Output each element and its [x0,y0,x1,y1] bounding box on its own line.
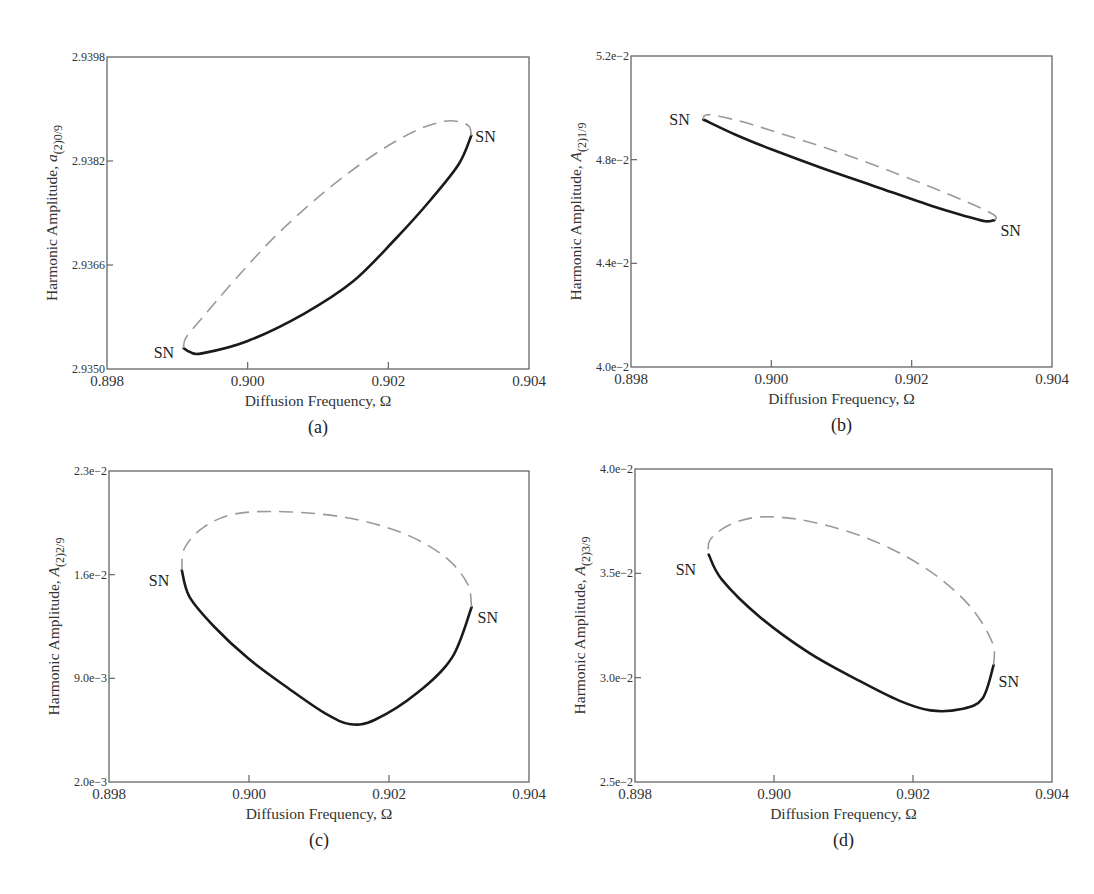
y-axis-title: Harmonic Amplitude, a(2)0/9 [43,125,65,301]
y-tick-label: 2.9382 [72,154,105,168]
x-tick-label: 0.904 [512,786,546,802]
y-tick-label: 3.5e−2 [600,566,633,580]
x-tick-label: 0.902 [895,371,929,387]
y-axis-title-subscript: (2)1/9 [575,123,589,152]
x-tick-label: 0.900 [757,786,791,802]
y-axis-title: Harmonic Amplitude, A(2)2/9 [45,538,67,716]
y-tick-label: 4.0e−2 [600,462,633,476]
y-axis-title-subscript: (2)0/9 [51,125,65,154]
saddle-node-label: SN [149,572,170,589]
x-tick-label: 0.904 [512,373,546,389]
panel-caption: (a) [308,417,328,438]
unstable-branch-curve [182,511,472,607]
y-tick-label: 4.4e−2 [596,256,629,270]
panel-caption: (b) [831,415,852,436]
y-axis-title-prefix: Harmonic Amplitude, [45,576,62,715]
x-axis-title: Diffusion Frequency, Ω [768,390,915,407]
stable-branch-curve [182,570,472,724]
chart-panel-d: 0.8980.9000.9020.9042.5e−23.0e−23.5e−24.… [571,462,1069,851]
y-axis-title: Harmonic Amplitude, A(2)3/9 [571,537,593,715]
saddle-node-label: SN [478,609,499,626]
y-axis-title-prefix: Harmonic Amplitude, [43,162,60,301]
unstable-branch-curve [184,121,472,349]
y-tick-label: 5.2e−2 [596,49,629,63]
y-tick-label: 4.8e−2 [596,153,629,167]
y-tick-label: 2.9398 [72,50,105,64]
x-tick-label: 0.904 [1035,371,1069,387]
y-tick-label: 2.3e−2 [74,464,107,478]
panel-caption: (d) [833,830,854,851]
y-axis-title-symbol: A [567,151,584,162]
x-tick-label: 0.902 [372,786,406,802]
stable-branch-curve [703,120,994,222]
saddle-node-label: SN [1000,222,1021,239]
y-tick-label: 2.9366 [72,258,105,272]
saddle-node-label: SN [669,111,690,128]
panel-caption: (c) [309,830,329,851]
x-tick-label: 0.900 [232,786,266,802]
y-tick-label: 4.0e−2 [596,360,629,374]
y-axis-title-prefix: Harmonic Amplitude, [571,575,588,714]
stable-branch-curve [709,555,994,711]
y-tick-label: 3.0e−2 [600,671,633,685]
chart-panel-c: 0.8980.9000.9020.9042.0e−39.0e−31.6e−22.… [45,464,546,851]
y-axis-title-symbol: A [45,566,62,577]
x-axis-title: Diffusion Frequency, Ω [770,805,917,822]
plot-frame [107,57,529,369]
y-tick-label: 1.6e−2 [74,568,107,582]
y-tick-label: 9.0e−3 [74,671,107,685]
y-axis-title-subscript: (2)2/9 [53,538,67,567]
saddle-node-label: SN [999,673,1020,690]
y-axis-title-subscript: (2)3/9 [579,537,593,566]
x-axis-title: Diffusion Frequency, Ω [246,805,393,822]
y-axis-title-prefix: Harmonic Amplitude, [567,161,584,300]
plot-frame [635,469,1052,782]
x-tick-label: 0.900 [231,373,265,389]
saddle-node-label: SN [676,561,697,578]
saddle-node-label: SN [475,128,496,145]
y-axis-title: Harmonic Amplitude, A(2)1/9 [567,123,589,301]
y-tick-label: 2.0e−3 [74,775,107,789]
y-tick-label: 2.9350 [72,362,105,376]
chart-panel-b: 0.8980.9000.9020.9044.0e−24.4e−24.8e−25.… [567,49,1069,436]
chart-panel-a: 0.8980.9000.9020.9042.93502.93662.93822.… [43,50,546,438]
stable-branch-curve [184,136,472,354]
x-tick-label: 0.904 [1035,786,1069,802]
unstable-branch-curve [703,115,996,221]
x-tick-label: 0.902 [371,373,405,389]
y-tick-label: 2.5e−2 [600,775,633,789]
x-tick-label: 0.900 [754,371,788,387]
x-tick-label: 0.902 [896,786,930,802]
x-axis-title: Diffusion Frequency, Ω [245,392,392,409]
saddle-node-label: SN [154,344,175,361]
unstable-branch-curve [708,517,994,665]
y-axis-title-symbol: A [571,565,588,576]
